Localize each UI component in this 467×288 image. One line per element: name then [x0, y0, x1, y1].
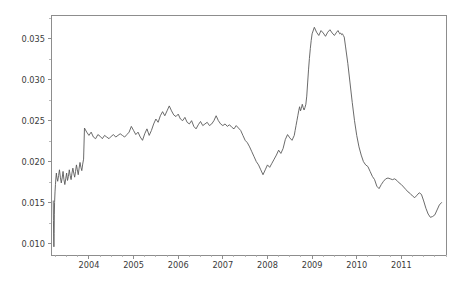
x-tick-label: 2008: [257, 260, 278, 270]
y-tick-label: 0.025: [22, 116, 45, 126]
x-tick-label: 2011: [391, 260, 412, 270]
x-tick-label: 2005: [123, 260, 144, 270]
x-tick-label: 2009: [302, 260, 323, 270]
y-tick-label: 0.015: [22, 198, 45, 208]
x-tick-label: 2010: [346, 260, 367, 270]
axes-spine-left-bottom: [51, 15, 446, 255]
data-series-line-1: [53, 27, 441, 247]
line-chart: 0.0100.0150.0200.0250.0300.0352004200520…: [0, 0, 467, 288]
x-tick-label: 2006: [168, 260, 189, 270]
y-tick-label: 0.035: [22, 34, 45, 44]
axes-spine-top-right: [51, 15, 446, 255]
y-tick-label: 0.020: [22, 157, 45, 167]
chart-figure: 0.0100.0150.0200.0250.0300.0352004200520…: [0, 0, 467, 288]
y-tick-label: 0.030: [22, 75, 45, 85]
y-tick-label: 0.010: [22, 239, 45, 249]
x-tick-label: 2007: [212, 260, 233, 270]
x-tick-label: 2004: [79, 260, 100, 270]
